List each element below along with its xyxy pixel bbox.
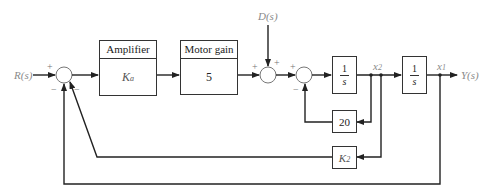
k2-gain: K2 (333, 152, 356, 164)
velocity-feedback-gain: 20 (333, 116, 356, 128)
sum2-plus-top: + (274, 58, 280, 68)
state-label-x1: x1 (437, 61, 446, 72)
motor-gain-block: Motor gain 5 (180, 40, 238, 95)
diagram-wiring (0, 0, 490, 194)
integrator-block-1: 1s (332, 56, 357, 94)
disturbance-label-d: D(s) (258, 11, 278, 22)
input-label-r: R(s) (14, 70, 32, 81)
amplifier-block: Amplifier Ka (99, 40, 157, 96)
amplifier-header: Amplifier (100, 41, 156, 59)
integrator-block-2: 1s (402, 56, 427, 94)
sum3-minus-sign: − (293, 85, 299, 95)
sum3-plus-sign: + (290, 62, 296, 72)
motor-gain-header: Motor gain (181, 41, 237, 59)
sum1-minus-sign-b: − (74, 85, 80, 95)
velocity-feedback-block: 20 (332, 110, 357, 133)
sum2-plus-left: + (252, 62, 258, 72)
sum1-plus-sign: + (47, 62, 53, 72)
motor-gain-value: 5 (181, 70, 237, 85)
state-label-x2: x2 (373, 61, 382, 72)
k2-feedback-block: K2 (332, 146, 357, 169)
sum1-minus-sign-a: − (51, 85, 57, 95)
output-label-y: Y(s) (461, 70, 479, 81)
amplifier-gain: Ka (100, 70, 156, 85)
